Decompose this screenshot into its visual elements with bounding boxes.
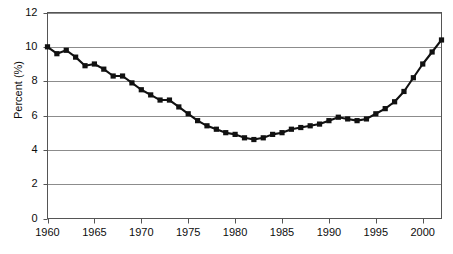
data-point-marker xyxy=(392,99,397,104)
data-point-marker xyxy=(233,132,238,137)
gridlines xyxy=(48,14,442,185)
data-point-marker xyxy=(289,127,294,132)
data-point-marker xyxy=(139,87,144,92)
data-point-marker xyxy=(401,89,406,94)
data-point-marker xyxy=(261,135,266,140)
data-point-marker xyxy=(129,80,134,85)
data-point-marker xyxy=(317,121,322,126)
data-point-marker xyxy=(270,132,275,137)
data-point-marker xyxy=(157,97,162,102)
data-point-marker xyxy=(45,44,50,49)
x-tick-label: 1960 xyxy=(28,227,68,238)
y-tick-label: 6 xyxy=(12,110,38,121)
data-point-marker xyxy=(411,75,416,80)
data-point-marker xyxy=(430,49,435,54)
x-tick-label: 1975 xyxy=(168,227,208,238)
data-point-marker xyxy=(204,123,209,128)
data-point-marker xyxy=(92,61,97,66)
x-tick-label: 1965 xyxy=(74,227,114,238)
data-point-marker xyxy=(354,118,359,123)
data-point-marker xyxy=(298,125,303,130)
data-point-marker xyxy=(364,116,369,121)
y-tick-label: 10 xyxy=(12,41,38,52)
data-point-marker xyxy=(326,118,331,123)
data-point-marker xyxy=(82,63,87,68)
x-tick-label: 1990 xyxy=(309,227,349,238)
data-point-marker xyxy=(73,55,78,60)
data-point-marker xyxy=(223,130,228,135)
x-tick-label: 1980 xyxy=(215,227,255,238)
data-point-marker xyxy=(167,97,172,102)
data-point-marker xyxy=(214,127,219,132)
data-point-marker xyxy=(251,137,256,142)
plot-frame xyxy=(48,13,442,219)
data-point-marker xyxy=(439,37,444,42)
data-point-marker xyxy=(242,135,247,140)
data-series-line xyxy=(48,40,442,140)
data-series-markers xyxy=(45,37,444,142)
data-point-marker xyxy=(101,67,106,72)
data-point-marker xyxy=(195,118,200,123)
data-point-marker xyxy=(186,111,191,116)
data-point-marker xyxy=(373,111,378,116)
x-tick-marks xyxy=(49,219,424,224)
y-tick-label: 8 xyxy=(12,75,38,86)
x-tick-label: 1985 xyxy=(262,227,302,238)
data-point-marker xyxy=(64,48,69,53)
data-point-marker xyxy=(308,123,313,128)
plot-area xyxy=(0,0,453,254)
x-tick-label: 1970 xyxy=(121,227,161,238)
data-point-marker xyxy=(148,92,153,97)
y-tick-label: 4 xyxy=(12,144,38,155)
y-tick-label: 0 xyxy=(12,213,38,224)
line-chart-figure: Percent (%) 024681012 196019651970197519… xyxy=(0,0,453,254)
data-point-marker xyxy=(54,51,59,56)
data-point-marker xyxy=(279,130,284,135)
data-point-marker xyxy=(420,61,425,66)
data-point-marker xyxy=(336,115,341,120)
data-point-marker xyxy=(345,116,350,121)
data-point-marker xyxy=(111,73,116,78)
data-point-marker xyxy=(120,73,125,78)
data-point-marker xyxy=(176,104,181,109)
y-tick-label: 2 xyxy=(12,178,38,189)
x-tick-label: 2000 xyxy=(403,227,443,238)
y-tick-label: 12 xyxy=(12,7,38,18)
data-point-marker xyxy=(383,106,388,111)
x-tick-label: 1995 xyxy=(356,227,396,238)
